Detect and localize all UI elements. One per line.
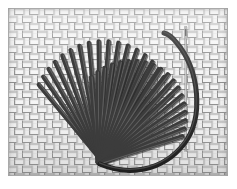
woven-basketweave-fabric xyxy=(8,8,228,176)
fabric-weave-svg xyxy=(8,8,228,176)
embroidery-photo xyxy=(0,0,237,189)
